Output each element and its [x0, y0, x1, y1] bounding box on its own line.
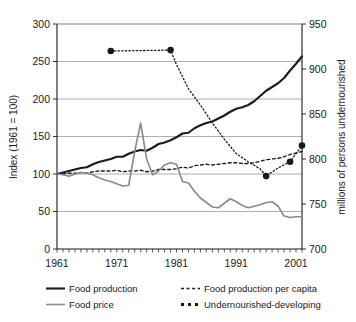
x-tick-label: 1961 [45, 257, 69, 269]
y-tick-label: 100 [32, 168, 50, 180]
legend-marker [188, 303, 191, 306]
legend-label: Food price [69, 299, 114, 310]
y2-tick-label: 900 [309, 63, 327, 75]
y2-tick-label: 700 [309, 243, 327, 255]
y-tick-label: 250 [32, 55, 50, 67]
series-layer [57, 47, 305, 218]
series-marker [299, 142, 306, 149]
legend-label: Undernourished-developing [204, 299, 321, 310]
y2-tick-label: 800 [309, 153, 327, 165]
y-tick-label: 300 [32, 18, 50, 30]
food-index-chart: Index (1961 = 100) millions of persons u… [0, 0, 356, 322]
y-tick-label: 50 [38, 205, 50, 217]
y2-axis-ticks: 700750800850900950 [302, 18, 327, 255]
x-tick-label: 1981 [165, 257, 189, 269]
y-axis-ticks: 050100150200250300 [32, 18, 57, 255]
x-axis-ticks: 19611971198119912001 [45, 249, 308, 269]
series-marker [263, 173, 270, 180]
y-tick-label: 150 [32, 130, 50, 142]
legend-marker [195, 303, 198, 306]
x-tick-label: 2001 [284, 257, 308, 269]
gridlines [57, 24, 302, 212]
series-line [57, 56, 302, 174]
y2-tick-label: 950 [309, 18, 327, 30]
y-axis-title: Index (1961 = 100) [8, 95, 19, 179]
legend-label: Food production [69, 283, 138, 294]
series-line [57, 123, 302, 218]
legend-marker [181, 303, 184, 306]
series-line [111, 50, 302, 176]
y2-tick-label: 850 [309, 108, 327, 120]
x-tick-label: 1991 [225, 257, 249, 269]
series-marker [287, 158, 294, 165]
y-tick-label: 200 [32, 93, 50, 105]
legend-label: Food production per capita [204, 283, 318, 294]
y-tick-label: 0 [44, 243, 50, 255]
series-marker [107, 48, 114, 55]
x-tick-label: 1971 [105, 257, 129, 269]
legend: Food productionFood priceFood production… [46, 283, 321, 310]
series-marker [167, 47, 174, 54]
y2-axis-title: millions of persons undernourished [336, 59, 347, 214]
y2-tick-label: 750 [309, 198, 327, 210]
chart-figure: Index (1961 = 100) millions of persons u… [0, 0, 356, 322]
